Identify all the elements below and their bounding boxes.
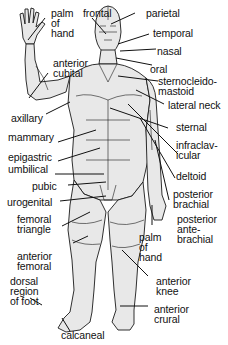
label-urogenital: urogenital: [7, 197, 52, 207]
label-frontal: frontal: [83, 8, 111, 18]
label-sternal: sternal: [176, 122, 207, 132]
label-anterior-crural: anterior crural: [154, 304, 189, 324]
label-axillary: axillary: [11, 113, 43, 123]
raised-hand: [20, 8, 45, 44]
label-anterior-cubital: anterior cubital: [53, 58, 88, 78]
label-femoral-triangle: femoral triangle: [17, 214, 51, 234]
label-pubic: pubic: [32, 181, 57, 191]
label-posterior-antebrachial: posterior ante- brachial: [177, 214, 217, 244]
label-mammary: mammary: [8, 132, 54, 142]
label-parietal: parietal: [146, 8, 180, 18]
label-palm-of-hand-bottom: palm of hand: [139, 232, 162, 262]
label-deltoid: deltoid: [176, 171, 206, 181]
label-sternocleidomastoid: sternocleido- mastoid: [158, 76, 217, 96]
label-umbilical: umbilical: [8, 164, 48, 174]
label-palm-of-hand-top: palm of hand: [51, 8, 74, 38]
label-temporal: temporal: [153, 28, 193, 38]
label-lateral-neck: lateral neck: [168, 100, 221, 110]
torso: [68, 64, 150, 200]
neck: [99, 50, 117, 64]
label-nasal: nasal: [157, 46, 182, 56]
left-leg: [58, 180, 106, 332]
label-dorsal-region-of-foot: dorsal region of foot: [10, 276, 39, 306]
label-infraclavicular: infraclav- icular: [176, 140, 218, 160]
label-epigastric: epigastric: [8, 152, 52, 162]
label-anterior-knee: anterior knee: [156, 276, 191, 296]
label-oral: oral: [150, 64, 167, 74]
label-posterior-brachial: posterior brachial: [173, 189, 213, 209]
label-calcaneal: calcaneal: [61, 330, 104, 340]
label-anterior-femoral: anterior femoral: [17, 251, 52, 271]
